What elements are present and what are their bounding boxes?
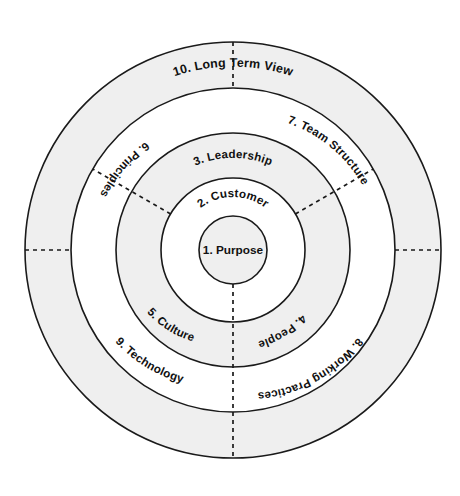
wheel-svg: 10. Long Term View 6. Principles 7. Team…: [0, 0, 460, 496]
concentric-wheel-diagram: 10. Long Term View 6. Principles 7. Team…: [0, 0, 460, 496]
label-purpose: 1. Purpose: [203, 243, 264, 257]
